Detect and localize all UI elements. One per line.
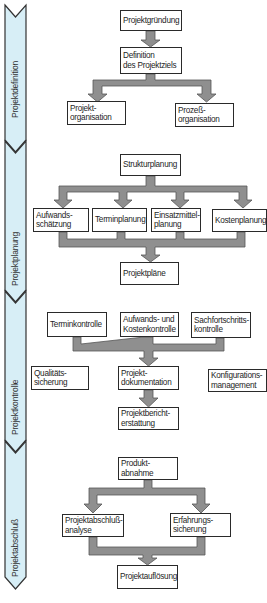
node-label: Projektabschluß- (65, 516, 121, 525)
node-label: Sachfortschritts- (194, 316, 248, 325)
node-label: management (211, 381, 264, 390)
node-sachfortschrittskontrolle: Sachfortschritts- kontrolle (191, 312, 251, 338)
node-label: kontrolle (194, 325, 248, 334)
node-label: Projektpläne (123, 269, 176, 278)
node-label: Aufwands- (36, 211, 86, 220)
node-kostenplanung: Kostenplanung (212, 209, 267, 232)
node-label: des Projektziels (123, 61, 179, 70)
node-projektplaene: Projektpläne (120, 262, 179, 285)
node-label: sicherung (34, 378, 86, 387)
node-label: Projektbericht- (121, 409, 176, 418)
node-projektgruendung: Projektgründung (120, 10, 182, 31)
phase-label-projektabschluss: Projektabschluß (10, 519, 20, 577)
node-label: Projekt- (121, 369, 176, 378)
node-label: sicherung (173, 525, 228, 534)
node-label: organisation (178, 115, 231, 124)
node-label: Terminplanung (95, 215, 144, 224)
node-label: planung (154, 220, 198, 229)
node-label: Projektgründung (123, 16, 179, 25)
node-prozessorganisation: Prozeß- organisation (175, 103, 234, 127)
node-label: Strukturplanung (123, 160, 178, 169)
node-aufwands-und-kostenkontrolle: Aufwands- und Kostenkontrolle (120, 312, 179, 337)
node-label: Projektauflösung (120, 572, 175, 581)
phase-label-projektdefinition: Projektdefinition (10, 61, 20, 118)
node-label: Kostenplanung (215, 216, 264, 225)
node-label: analyse (65, 526, 121, 535)
node-terminkontrolle: Terminkontrolle (47, 312, 107, 337)
node-label: Aufwands- und (123, 315, 176, 324)
node-projektberichterstattung: Projektbericht- erstattung (118, 407, 179, 430)
node-label: dokumentation (121, 378, 176, 387)
node-label: Einsatzmittel- (154, 211, 198, 220)
node-label: erstattung (121, 419, 176, 428)
node-label: Prozeß- (178, 106, 231, 115)
node-produktabnahme: Produkt- abnahme (118, 457, 178, 480)
node-qualitaetssicherung: Qualitäts- sicherung (31, 366, 89, 390)
node-label: schätzung (36, 220, 86, 229)
node-einsatzmittelplanung: Einsatzmittel- planung (151, 208, 201, 232)
node-label: Qualitäts- (34, 369, 86, 378)
phase-label-projektkontrolle: Projektkontrolle (10, 380, 20, 435)
node-projektabschlussanalyse: Projektabschluß- analyse (62, 514, 124, 537)
diagram-canvas: .band { fill: #d7eef6; stroke: #333; str… (0, 0, 267, 603)
node-label: Konfigurations- (211, 371, 264, 380)
node-label: Kostenkontrolle (123, 325, 176, 334)
node-label: organisation (70, 113, 123, 122)
node-terminplanung: Terminplanung (92, 208, 147, 232)
node-definition-des-projektziels: Definition des Projektziels (120, 47, 182, 74)
phase-label-projektplanung: Projektplanung (10, 232, 20, 286)
node-strukturplanung: Strukturplanung (120, 154, 181, 176)
node-projektaufloesung: Projektauflösung (117, 565, 178, 589)
node-label: Erfahrungs- (173, 516, 228, 525)
node-projektdokumentation: Projekt- dokumentation (118, 366, 179, 390)
node-label: abnahme (121, 469, 175, 478)
node-erfahrungssicherung: Erfahrungs- sicherung (170, 513, 231, 537)
node-label: Definition (123, 51, 179, 60)
node-konfigurationsmanagement: Konfigurations- management (208, 369, 267, 392)
node-projektorganisation: Projekt- organisation (67, 101, 126, 125)
node-label: Projekt- (70, 104, 123, 113)
node-label: Terminkontrolle (50, 320, 104, 329)
node-aufwandsschaetzung: Aufwands- schätzung (33, 208, 89, 232)
node-label: Produkt- (121, 459, 175, 468)
